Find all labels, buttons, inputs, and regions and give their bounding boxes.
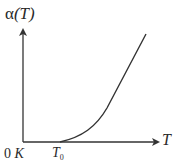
t0-tick-label: T0: [52, 145, 64, 162]
chart-svg: [0, 0, 184, 166]
chart-figure: α(T) T 0 K T0: [0, 0, 184, 166]
origin-label: 0 K: [4, 146, 24, 162]
x-axis-label: T: [162, 131, 171, 149]
y-axis-label: α(T): [5, 4, 35, 24]
alpha-curve: [60, 34, 146, 142]
